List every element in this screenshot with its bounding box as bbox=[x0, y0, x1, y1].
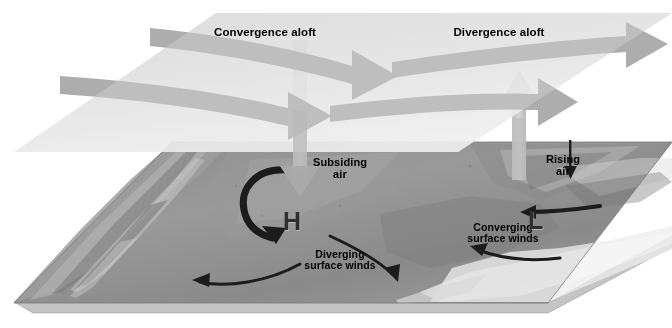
label-diverging-surface-winds: Diverging surface winds bbox=[291, 249, 389, 272]
label-rising-air: Rising air bbox=[534, 154, 592, 178]
low-pressure-symbol: L bbox=[528, 206, 543, 235]
label-divergence-aloft: Divergence aloft bbox=[438, 26, 560, 38]
diagram-canvas: Convergence aloft Divergence aloft Subsi… bbox=[0, 0, 672, 328]
label-convergence-aloft: Convergence aloft bbox=[205, 26, 325, 38]
label-subsiding-air: Subsiding air bbox=[303, 157, 377, 181]
rising-shaft-lower bbox=[512, 118, 526, 180]
upper-level-plane bbox=[14, 13, 672, 152]
high-pressure-symbol: H bbox=[283, 207, 301, 236]
